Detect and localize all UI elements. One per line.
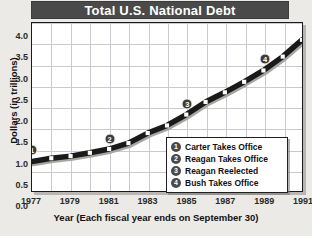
data-point-marker xyxy=(184,112,188,116)
chart-title-banner: Total U.S. National Debt xyxy=(31,1,289,19)
data-point-marker xyxy=(126,141,130,145)
x-axis-tick-label: 1985 xyxy=(176,196,196,206)
data-point-marker xyxy=(107,147,111,151)
data-point-marker xyxy=(261,68,265,72)
data-point-marker xyxy=(223,90,227,94)
event-marker-2: 2 xyxy=(104,134,115,145)
x-axis-ticks: 19771979198119831985198719891991 xyxy=(0,196,312,210)
data-point-marker xyxy=(49,156,53,160)
legend-item-label: Reagan Takes Office xyxy=(185,154,268,164)
chart-figure: Total U.S. National Debt 1234 0.00.51.01… xyxy=(0,0,312,236)
y-axis-title: Dollars (in trillions) xyxy=(8,41,19,161)
legend-item-3: 3Reagan Reelected xyxy=(171,165,283,177)
legend-bullet-icon: 4 xyxy=(171,178,181,188)
event-marker-3: 3 xyxy=(182,98,193,109)
y-axis-tick-label: 0.5 xyxy=(15,180,28,190)
legend-bullet-icon: 1 xyxy=(171,142,181,152)
data-point-marker xyxy=(88,151,92,155)
x-axis-tick-label: 1979 xyxy=(60,196,80,206)
data-point-marker xyxy=(242,80,246,84)
data-point-marker xyxy=(281,55,285,59)
data-point-marker xyxy=(300,38,302,42)
chart-legend: 1Carter Takes Office2Reagan Takes Office… xyxy=(166,137,288,193)
x-axis-tick-label: 1977 xyxy=(21,196,41,206)
data-point-marker xyxy=(165,123,169,127)
legend-bullet-icon: 3 xyxy=(171,166,181,176)
event-marker-4: 4 xyxy=(260,54,271,65)
x-axis-tick-label: 1989 xyxy=(254,196,274,206)
legend-bullet-icon: 2 xyxy=(171,154,181,164)
page-title: Total U.S. National Debt xyxy=(84,3,235,18)
x-axis-tick-label: 1991 xyxy=(293,196,312,206)
x-axis-tick-label: 1981 xyxy=(99,196,119,206)
legend-item-label: Bush Takes Office xyxy=(185,178,259,188)
x-axis-tick-label: 1987 xyxy=(215,196,235,206)
legend-item-4: 4Bush Takes Office xyxy=(171,177,283,189)
legend-item-label: Reagan Reelected xyxy=(185,166,258,176)
data-point-marker xyxy=(146,131,150,135)
legend-item-label: Carter Takes Office xyxy=(185,142,262,152)
data-point-marker xyxy=(68,154,72,158)
y-axis-tick-label: 4.0 xyxy=(15,31,28,41)
x-axis-tick-label: 1983 xyxy=(138,196,158,206)
x-axis-title: Year (Each fiscal year ends on September… xyxy=(0,212,312,223)
legend-item-1: 1Carter Takes Office xyxy=(171,141,283,153)
data-point-marker xyxy=(203,100,207,104)
legend-item-2: 2Reagan Takes Office xyxy=(171,153,283,165)
